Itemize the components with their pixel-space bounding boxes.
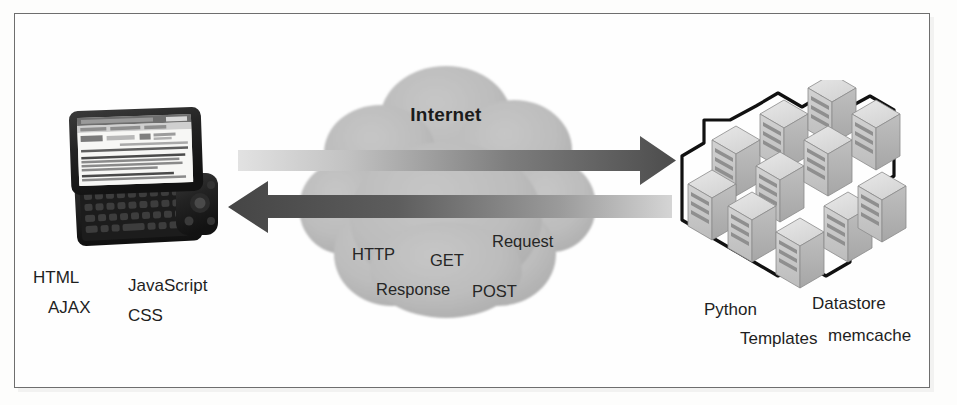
- phone-screen-slab: [69, 107, 204, 196]
- cloud-term-response: Response: [376, 280, 450, 299]
- mobile-phone-device: [68, 103, 220, 253]
- architecture-diagram-figure: Internet HTTP GET Request Response POST: [0, 0, 957, 405]
- client-label-javascript: JavaScript: [128, 276, 207, 296]
- server-label-datastore: Datastore: [812, 294, 886, 314]
- server-label-templates: Templates: [740, 329, 817, 349]
- rack-r2c2: [804, 126, 852, 196]
- cloud-term-http: HTTP: [352, 245, 395, 264]
- rack-r1c3: [776, 218, 824, 288]
- client-label-css: CSS: [128, 306, 163, 326]
- rack-r1c2: [728, 192, 776, 262]
- server-label-memcache: memcache: [828, 326, 911, 346]
- cloud-term-get: GET: [430, 251, 464, 270]
- cloud-term-post: POST: [472, 282, 517, 301]
- rack-r2c3: [852, 100, 900, 170]
- internet-cloud: Internet HTTP GET Request Response POST: [296, 58, 596, 333]
- client-label-html: HTML: [33, 268, 79, 288]
- cloud-label: Internet: [296, 104, 596, 126]
- server-rack-cluster: [668, 80, 908, 290]
- server-label-python: Python: [704, 300, 757, 320]
- rack-r1c5: [858, 172, 906, 242]
- client-label-ajax: AJAX: [48, 298, 91, 318]
- cloud-term-request: Request: [492, 232, 553, 251]
